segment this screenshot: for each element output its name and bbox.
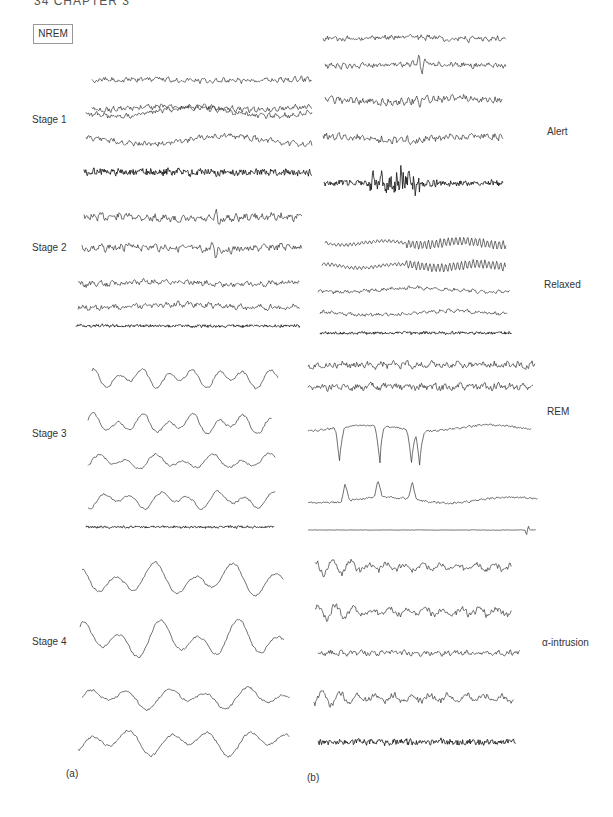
eeg-trace: [322, 260, 506, 273]
eeg-trace: [315, 559, 511, 577]
eeg-trace: [315, 604, 511, 622]
eeg-trace: [92, 76, 312, 84]
state-label: Relaxed: [544, 279, 581, 290]
eeg-trace: [86, 105, 312, 118]
eeg-trace: [318, 650, 520, 657]
eeg-trace: [84, 168, 311, 177]
eeg-trace: [92, 104, 312, 113]
eeg-trace: [308, 424, 531, 465]
eeg-trace: [78, 301, 299, 311]
eeg-trace: [324, 165, 503, 195]
stage-label: Stage 3: [32, 428, 66, 439]
state-label: Alert: [547, 126, 568, 137]
eeg-trace: [84, 209, 302, 224]
eeg-trace: [80, 619, 284, 657]
eeg-trace: [82, 242, 302, 257]
state-label: α-intrusion: [542, 637, 589, 648]
eeg-trace: [86, 526, 274, 529]
eeg-trace: [323, 34, 506, 43]
eeg-trace: [92, 368, 278, 389]
eeg-trace: [88, 453, 275, 469]
eeg-trace: [88, 490, 275, 510]
eeg-trace: [314, 690, 514, 707]
eeg-trace: [82, 562, 284, 597]
eeg-trace: [325, 237, 506, 249]
eeg-trace: [86, 133, 312, 146]
eeg-trace: [318, 286, 510, 294]
eeg-trace: [88, 413, 272, 434]
eeg-trace: [82, 687, 290, 711]
stage-label: Stage 2: [32, 242, 66, 253]
eeg-trace: [320, 309, 507, 317]
state-label: REM: [547, 406, 569, 417]
panel-a-label: (a): [66, 768, 78, 779]
eeg-trace: [318, 738, 515, 746]
eeg-trace: [308, 360, 535, 369]
eeg-trace: [76, 324, 300, 328]
eeg-traces-figure: [0, 0, 613, 817]
eeg-trace: [323, 133, 503, 145]
eeg-trace: [308, 526, 536, 534]
eeg-trace: [308, 482, 538, 504]
eeg-trace: [325, 55, 506, 74]
eeg-trace: [325, 94, 502, 107]
stage-label: Stage 1: [32, 114, 66, 125]
stage-label: Stage 4: [32, 636, 66, 647]
eeg-trace: [78, 730, 289, 757]
eeg-trace: [320, 331, 511, 335]
eeg-trace: [308, 382, 533, 391]
eeg-trace: [78, 278, 299, 287]
panel-b-label: (b): [307, 772, 319, 783]
